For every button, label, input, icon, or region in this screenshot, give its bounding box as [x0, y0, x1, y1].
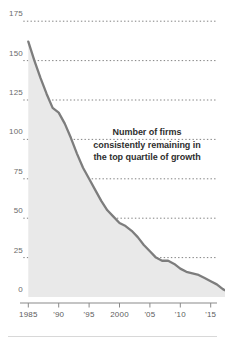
area-fill [28, 42, 225, 297]
annotation-line-2: consistently remaining in [76, 139, 218, 152]
x-axis-tick-label: '15 [191, 310, 225, 319]
y-axis-tick-label: 75 [1, 167, 23, 176]
y-axis-tick-label: 100 [1, 127, 23, 136]
y-axis-tick-label: 25 [1, 246, 23, 255]
y-axis-tick-label: 175 [1, 9, 23, 18]
bottom-divider [8, 336, 217, 337]
y-axis-tick-label: 150 [1, 49, 23, 58]
chart-annotation: Number of firms consistently remaining i… [76, 126, 218, 164]
y-axis-tick-label: 0 [1, 285, 23, 294]
y-axis-tick-label: 50 [1, 206, 23, 215]
x-axis-ticks-group [28, 303, 210, 308]
annotation-line-3: the top quartile of growth [76, 151, 218, 164]
chart-container: 0255075100125150175 1985'90'952000'05'10… [0, 0, 225, 346]
y-axis-tick-label: 125 [1, 88, 23, 97]
annotation-line-1: Number of firms [76, 126, 218, 139]
chart-plot-area [0, 0, 225, 346]
